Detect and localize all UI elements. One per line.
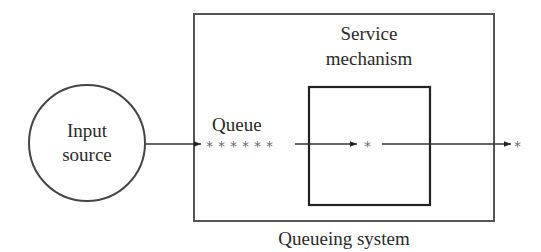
queue-customer-icon: * xyxy=(218,138,225,154)
input-source-label-line2: source xyxy=(62,144,112,165)
input-source-label-line1: Input xyxy=(67,120,108,141)
queue-customer-icon: * xyxy=(206,138,213,154)
queue-customer-icon: * xyxy=(230,138,237,154)
input-source-node: Input source xyxy=(29,85,145,201)
queue-customer-icon: * xyxy=(266,138,273,154)
queueing-diagram: Input source Queueing system Service mec… xyxy=(0,0,541,252)
queue-customer-icon: * xyxy=(242,138,249,154)
queue-customers: * * * * * * xyxy=(206,138,273,154)
queue-customer-icon: * xyxy=(254,138,261,154)
queueing-system-label: Queueing system xyxy=(278,228,410,249)
input-source-circle xyxy=(29,85,145,201)
served-customer-icon: * xyxy=(514,138,521,154)
service-mechanism-label-line1: Service xyxy=(341,23,398,44)
queue-label: Queue xyxy=(212,114,262,135)
service-mechanism-label-line2: mechanism xyxy=(326,48,413,69)
customer-in-service-icon: * xyxy=(364,138,371,154)
